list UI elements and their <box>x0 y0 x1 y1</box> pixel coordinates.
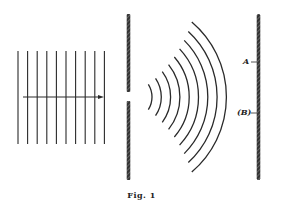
diffraction-diagram <box>0 0 283 209</box>
point-b-label: (B) <box>237 107 251 117</box>
propagation-arrow-icon <box>23 95 104 99</box>
point-a-label: A <box>243 56 249 66</box>
slit-barrier <box>127 14 131 180</box>
detection-screen <box>257 14 261 180</box>
circular-wavefronts <box>148 22 226 172</box>
figure-caption: Fig. 1 <box>0 190 283 200</box>
